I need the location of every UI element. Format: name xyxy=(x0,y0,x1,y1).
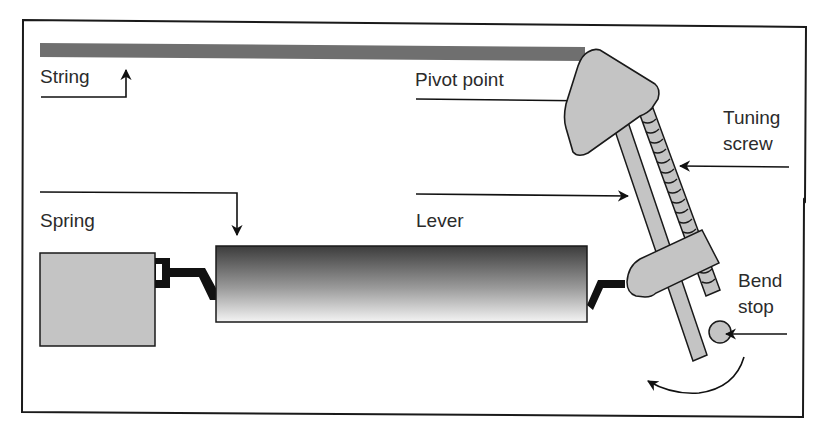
label-tuning-screw-line2: screw xyxy=(723,133,780,155)
label-spring: Spring xyxy=(40,210,95,232)
label-bend-stop-line1: Bend xyxy=(738,270,782,292)
label-bend-stop: Bend stop xyxy=(738,270,782,318)
pivot-block xyxy=(565,49,660,155)
spring-block xyxy=(40,253,155,346)
rotation-arrow xyxy=(648,357,744,393)
bend-stop xyxy=(709,321,731,343)
label-string: String xyxy=(40,66,90,88)
diagram-canvas: String Pivot point Tuning screw Spring L… xyxy=(0,0,822,436)
lever-body xyxy=(216,246,587,322)
label-tuning-screw-line1: Tuning xyxy=(723,107,780,129)
label-tuning-screw: Tuning screw xyxy=(723,107,780,155)
lever-pointer-arrow xyxy=(416,194,628,196)
tuning-screw-pointer-arrow xyxy=(680,166,789,167)
label-bend-stop-line2: stop xyxy=(738,296,782,318)
diagram-svg xyxy=(0,0,822,436)
string-bar xyxy=(40,43,585,61)
spring-link xyxy=(155,258,217,300)
label-pivot-point: Pivot point xyxy=(415,69,504,91)
label-lever: Lever xyxy=(416,210,464,232)
lever-clamp-link xyxy=(587,280,625,310)
